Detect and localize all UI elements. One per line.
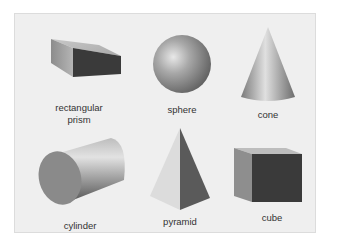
rectangular-prism-label: rectangular prism xyxy=(44,102,114,126)
rectangular-prism-icon xyxy=(48,34,128,84)
cone-icon xyxy=(238,25,298,105)
cube-label: cube xyxy=(242,212,302,224)
cone-label: cone xyxy=(238,109,298,121)
sphere-icon xyxy=(152,34,212,94)
pyramid-icon xyxy=(148,126,212,212)
cylinder-icon xyxy=(36,136,132,210)
sphere-label: sphere xyxy=(152,104,212,116)
pyramid-label: pyramid xyxy=(150,216,210,228)
cube-icon xyxy=(232,144,304,210)
cylinder-label: cylinder xyxy=(50,220,110,232)
